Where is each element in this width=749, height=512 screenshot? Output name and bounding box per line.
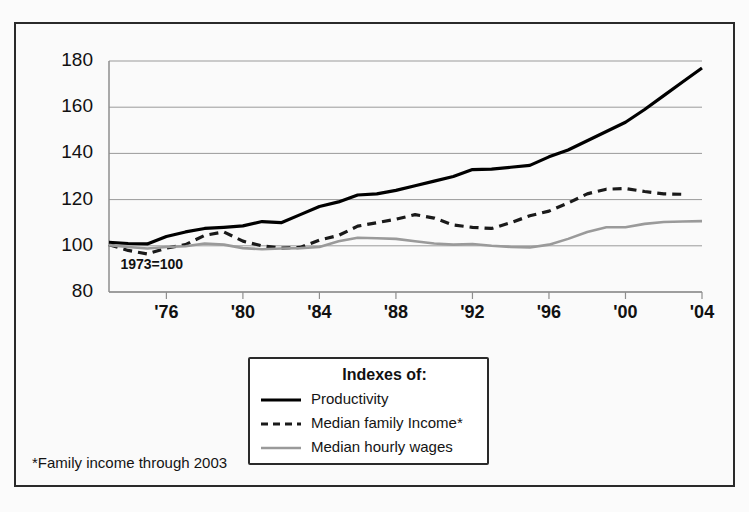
chart-page: 80100120140160180 '76'80'84'88'92'96'00'…	[0, 0, 749, 512]
y-tick-label-120: 120	[61, 188, 93, 209]
y-tick-label-180: 180	[61, 49, 93, 70]
base-note-label: 1973=100	[120, 256, 183, 272]
data-series	[109, 68, 702, 254]
x-tick-label-76: '76	[154, 302, 178, 322]
chart-frame: 80100120140160180 '76'80'84'88'92'96'00'…	[14, 22, 735, 487]
y-tick-label-80: 80	[72, 280, 93, 301]
baseline-annotation: 1973=100	[120, 256, 183, 272]
x-tick-label-80: '80	[231, 302, 255, 322]
chart-axes	[109, 61, 702, 292]
x-tick-label-88: '88	[384, 302, 408, 322]
y-tick-label-140: 140	[61, 141, 93, 162]
gridlines	[109, 61, 702, 292]
x-tick-label-96: '96	[537, 302, 561, 322]
legend-label-median-hourly-wages: Median hourly wages	[311, 438, 453, 455]
line-chart: 80100120140160180 '76'80'84'88'92'96'00'…	[16, 24, 733, 485]
x-tick-label-92: '92	[460, 302, 484, 322]
x-tick-label-84: '84	[307, 302, 331, 322]
legend-label-median-family-income: Median family Income*	[311, 414, 463, 431]
x-tick-label-00: '00	[613, 302, 637, 322]
y-tick-label-160: 160	[61, 95, 93, 116]
legend-label-productivity: Productivity	[311, 390, 389, 407]
x-axis-ticks	[166, 292, 702, 299]
y-tick-label-100: 100	[61, 234, 93, 255]
y-axis-tick-labels: 80100120140160180	[61, 49, 93, 301]
legend-title: Indexes of:	[342, 366, 426, 383]
x-tick-label-04: '04	[690, 302, 714, 322]
footnote-label: *Family income through 2003	[32, 454, 227, 471]
series-line-median-hourly-wages	[109, 221, 702, 249]
x-axis-tick-labels: '76'80'84'88'92'96'00'04	[154, 302, 714, 322]
chart-legend: Indexes of:ProductivityMedian family Inc…	[249, 358, 488, 464]
